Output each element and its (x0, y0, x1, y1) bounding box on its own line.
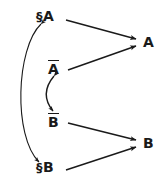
node-section-b-sigil: § (36, 161, 43, 174)
node-b-label: B (143, 135, 154, 151)
node-bar-a-label: A (48, 60, 59, 76)
node-b[interactable]: B (143, 136, 154, 150)
node-section-a-sigil: § (36, 10, 43, 23)
node-a-label: A (143, 34, 154, 50)
edge-bar-a-to-a (68, 46, 136, 70)
node-section-a-label: A (43, 8, 54, 24)
node-a[interactable]: A (143, 35, 154, 49)
edge-section-b-to-b (66, 147, 136, 170)
edge-bar-b-to-b (68, 123, 136, 140)
node-bar-b[interactable]: B (48, 113, 59, 129)
node-bar-a[interactable]: A (48, 60, 59, 76)
node-section-b[interactable]: §B (36, 160, 54, 174)
edge-section-a-to-a (66, 20, 136, 39)
node-section-a[interactable]: §A (36, 9, 54, 23)
edge-section-a-section-b (21, 24, 41, 162)
diagram-canvas: §A A B §B A B (0, 0, 164, 184)
edge-bar-a-bar-b (46, 76, 54, 111)
node-section-b-label: B (43, 159, 54, 175)
node-bar-b-label: B (48, 113, 59, 129)
diagram-edges-layer (0, 0, 164, 184)
